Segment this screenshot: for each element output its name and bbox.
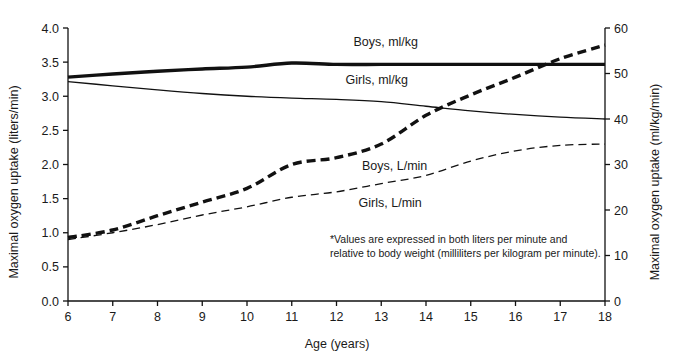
right-axis-tick-label: 50 (614, 67, 628, 81)
oxygen-uptake-line-chart: 0.00.51.01.52.02.53.03.54.00102030405060… (0, 0, 675, 364)
footnote-line-1: *Values are expressed in both liters per… (330, 233, 568, 245)
right-axis-title: Maximal oxygen uptake (ml/kg/min) (648, 84, 662, 281)
right-axis-tick-label: 0 (614, 295, 621, 309)
right-axis-tick-label: 30 (614, 158, 628, 172)
left-axis-tick-label: 0.5 (42, 260, 59, 274)
x-axis-tick-label: 11 (285, 310, 298, 324)
right-axis-tick-label: 60 (614, 22, 628, 36)
left-axis-tick-label: 2.0 (42, 158, 59, 172)
x-axis-tick-label: 13 (374, 310, 388, 324)
right-axis-tick-label: 20 (614, 204, 628, 218)
x-axis-tick-label: 16 (509, 310, 523, 324)
left-axis-title: Maximal oxygen uptake (liters/min) (7, 85, 21, 278)
x-axis-title: Age (years) (305, 337, 370, 351)
series-label: Girls, ml/kg (346, 73, 409, 87)
left-axis-tick-label: 0.0 (42, 295, 59, 309)
left-axis-tick-label: 3.0 (42, 90, 59, 104)
series-label: Boys, L/min (362, 159, 427, 173)
x-axis-tick-label: 15 (464, 310, 478, 324)
left-axis-tick-label: 1.5 (42, 192, 59, 206)
left-axis-tick-label: 3.5 (42, 56, 59, 70)
x-axis-tick-label: 18 (598, 310, 612, 324)
series-label: Boys, ml/kg (353, 35, 418, 49)
left-axis-tick-label: 2.5 (42, 124, 59, 138)
left-axis-tick-label: 4.0 (42, 22, 59, 36)
x-axis-tick-label: 7 (109, 310, 116, 324)
right-axis-tick-label: 10 (614, 249, 628, 263)
x-axis-tick-label: 12 (330, 310, 344, 324)
right-axis-tick-label: 40 (614, 113, 628, 127)
x-axis-tick-label: 17 (553, 310, 567, 324)
footnote-line-2: relative to body weight (milliliters per… (330, 247, 601, 259)
x-axis-tick-label: 8 (154, 310, 161, 324)
x-axis-tick-label: 10 (240, 310, 254, 324)
left-axis-tick-label: 1.0 (42, 226, 59, 240)
series-label: Girls, L/min (359, 196, 422, 210)
x-axis-tick-label: 14 (419, 310, 433, 324)
chart-figure: 0.00.51.01.52.02.53.03.54.00102030405060… (0, 0, 675, 364)
x-axis-tick-label: 6 (65, 310, 72, 324)
x-axis-tick-label: 9 (199, 310, 206, 324)
